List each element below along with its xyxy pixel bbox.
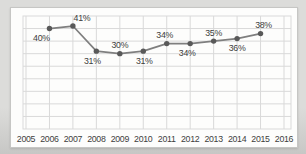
- data-point-marker: [70, 23, 75, 28]
- x-axis-tick-label: 2009: [111, 134, 130, 144]
- x-axis-tick-label: 2007: [64, 134, 83, 144]
- data-point-marker: [141, 48, 146, 53]
- data-point-label: 38%: [255, 20, 272, 30]
- data-point-marker: [258, 31, 263, 36]
- data-point-label: 34%: [179, 48, 196, 58]
- data-point-marker: [187, 41, 192, 46]
- x-axis-tick-label: 2013: [204, 134, 223, 144]
- data-point-label: 30%: [111, 40, 128, 50]
- data-point-marker: [117, 51, 122, 56]
- data-point-label: 40%: [33, 33, 50, 43]
- line-chart: 40%41%31%30%31%34%34%35%36%38%2005200620…: [11, 8, 299, 149]
- x-axis-tick-label: 2005: [17, 134, 36, 144]
- data-point-marker: [211, 38, 216, 43]
- x-axis-tick-label: 2015: [251, 134, 270, 144]
- x-axis-tick-label: 2011: [158, 134, 176, 144]
- x-axis-tick-label: 2010: [134, 134, 153, 144]
- x-axis-tick-label: 2014: [228, 134, 247, 144]
- data-point-label: 35%: [205, 28, 222, 38]
- data-point-label: 36%: [229, 43, 246, 53]
- chart-panel: 40%41%31%30%31%34%34%35%36%38%2005200620…: [10, 7, 298, 148]
- x-axis-tick-label: 2006: [40, 134, 59, 144]
- data-point-marker: [164, 41, 169, 46]
- x-axis-tick-label: 2008: [87, 134, 106, 144]
- x-axis-tick-label: 2012: [181, 134, 200, 144]
- data-point-label: 34%: [156, 30, 173, 40]
- data-point-label: 41%: [74, 13, 91, 23]
- data-point-label: 31%: [84, 56, 101, 66]
- data-point-label: 31%: [136, 56, 153, 66]
- data-point-marker: [234, 36, 239, 41]
- x-axis-tick-label: 2016: [275, 134, 294, 144]
- page-background: 40%41%31%30%31%34%34%35%36%38%2005200620…: [0, 0, 306, 154]
- data-point-marker: [94, 48, 99, 53]
- data-point-marker: [47, 26, 52, 31]
